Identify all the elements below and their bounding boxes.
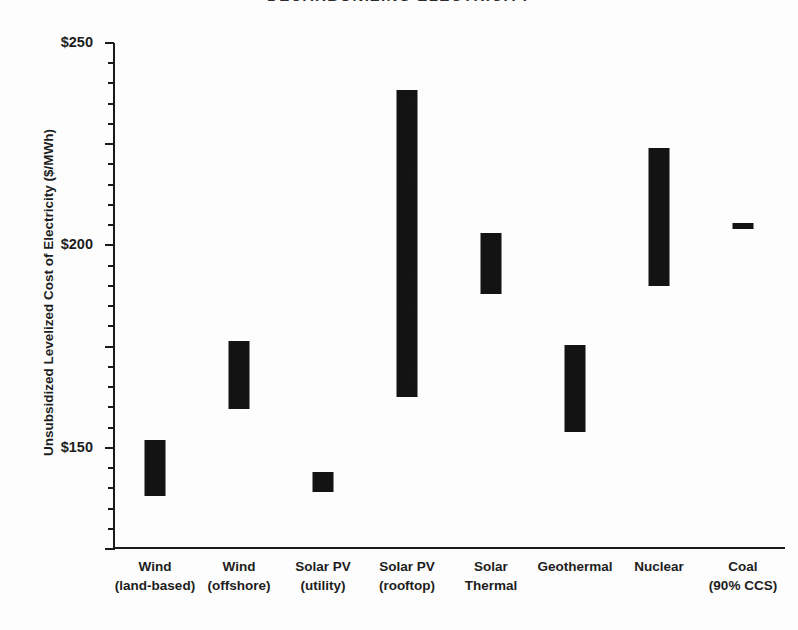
y-tick-minor: [108, 325, 114, 327]
y-tick-minor: [108, 386, 114, 388]
y-tick-minor: [108, 224, 114, 226]
y-tick-minor: [108, 163, 114, 165]
x-axis-category-label: Wind(offshore): [208, 557, 271, 595]
y-tick-major: $250: [105, 42, 114, 44]
y-tick-minor: [108, 123, 114, 125]
x-axis-category-label-line: Coal: [709, 557, 777, 576]
range-bar: [481, 233, 502, 294]
y-tick-minor: [108, 508, 114, 510]
x-axis-category-label-line: Solar: [465, 557, 518, 576]
x-axis-category-label-line: Nuclear: [634, 557, 684, 576]
x-axis-category-label-line: Solar PV: [379, 557, 435, 576]
range-bar: [565, 345, 586, 432]
y-tick-minor: [108, 184, 114, 186]
y-tick-minor: [108, 62, 114, 64]
y-tick-major: $200: [105, 143, 114, 145]
y-tick-major: $150: [105, 244, 114, 246]
x-axis-category-label-line: (offshore): [208, 576, 271, 595]
plot-area: $0$50$100$150$200$250 Wind(land-based)Wi…: [113, 43, 785, 549]
y-tick-label: $250: [61, 34, 93, 50]
range-bar: [733, 223, 754, 229]
x-axis-category-label-line: Geothermal: [537, 557, 612, 576]
x-axis-category-label-line: Solar PV: [295, 557, 351, 576]
page-title: DECARBONIZING ELECTRICITY: [0, 0, 798, 4]
x-axis-category-label-line: Wind: [115, 557, 195, 576]
range-bar: [145, 440, 166, 497]
x-axis-category-label: Solar PV(rooftop): [379, 557, 435, 595]
y-tick-minor: [108, 82, 114, 84]
x-axis-category-label: Geothermal: [537, 557, 612, 576]
x-axis-category-label-line: Thermal: [465, 576, 518, 595]
y-tick-minor: [108, 427, 114, 429]
y-axis-line: [113, 43, 115, 550]
x-axis-category-label: Solar PV(utility): [295, 557, 351, 595]
x-axis-category-label-line: (utility): [295, 576, 351, 595]
y-tick-minor: [108, 467, 114, 469]
y-axis-title: Unsubsidized Levelized Cost of Electrici…: [41, 43, 56, 543]
chart-page: DECARBONIZING ELECTRICITY Unsubsidized L…: [0, 0, 798, 630]
range-bar: [649, 148, 670, 286]
y-tick-minor: [108, 528, 114, 530]
y-tick-label: $150: [61, 439, 93, 455]
x-axis-category-label: Coal(90% CCS): [709, 557, 777, 595]
y-tick-minor: [108, 305, 114, 307]
y-tick-minor: [108, 366, 114, 368]
range-bar: [397, 90, 418, 398]
x-axis-category-label: SolarThermal: [465, 557, 518, 595]
x-axis-line: [113, 547, 785, 549]
y-tick-minor: [108, 487, 114, 489]
x-axis-category-label-line: (land-based): [115, 576, 195, 595]
range-bar: [229, 341, 250, 410]
y-tick-major: $50: [105, 447, 114, 449]
x-axis-category-label: Wind(land-based): [115, 557, 195, 595]
y-tick-major: $0: [105, 548, 114, 550]
x-axis-category-label: Nuclear: [634, 557, 684, 576]
y-tick-minor: [108, 265, 114, 267]
y-tick-minor: [108, 285, 114, 287]
range-bar: [313, 472, 334, 492]
x-axis-category-label-line: (90% CCS): [709, 576, 777, 595]
x-axis-category-label-line: (rooftop): [379, 576, 435, 595]
y-tick-minor: [108, 406, 114, 408]
y-tick-label: $200: [61, 236, 93, 252]
y-tick-major: $100: [105, 346, 114, 348]
y-tick-minor: [108, 103, 114, 105]
y-tick-minor: [108, 204, 114, 206]
x-axis-category-label-line: Wind: [208, 557, 271, 576]
